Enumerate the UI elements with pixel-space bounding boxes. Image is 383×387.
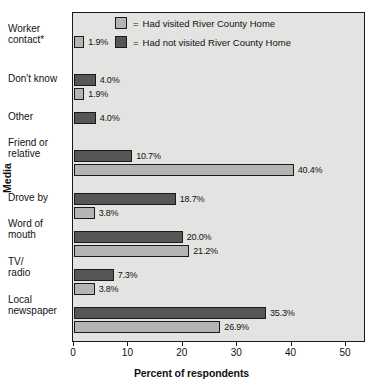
bar [74,307,266,319]
x-axis-tick [236,342,237,346]
x-axis-tick [73,342,74,346]
bar-value-label: 40.4% [298,164,323,176]
bar-value-label: 35.3% [270,307,295,319]
bar-value-label: 21.2% [193,245,218,257]
category-label: Other [8,111,72,123]
bar-value-label: 4.0% [100,74,120,86]
x-axis-tick-label: 40 [285,347,296,358]
bar-value-label: 4.0% [100,112,120,124]
bar [74,207,95,219]
x-axis-tick [291,342,292,346]
bar-value-label: 20.0% [187,231,212,243]
bar [74,164,294,176]
x-axis-tick [127,342,128,346]
category-label: TV/ radio [8,256,72,279]
bar-value-label: 1.9% [88,36,108,48]
legend-swatch [115,17,127,29]
legend-item: =Had not visited River County Home [115,36,291,48]
bar [74,321,220,333]
category-label: Word of mouth [8,218,72,241]
x-axis-tick-label: 0 [70,347,76,358]
bar-value-label: 7.3% [118,269,138,281]
legend-item: =Had visited River County Home [115,17,291,29]
x-axis-tick-label: 10 [122,347,133,358]
category-label: Worker contact* [8,23,72,46]
bar-value-label: 10.7% [136,150,161,162]
plot-area: 1.9%4.0%1.9%4.0%10.7%40.4%18.7%3.8%20.0%… [72,12,365,342]
category-label: Local newspaper [8,294,72,317]
bar [74,283,95,295]
bar [74,36,84,48]
legend-swatch [115,36,127,48]
legend-label: Had not visited River County Home [143,37,291,48]
bar [74,150,132,162]
legend-equals-sign: = [133,37,139,48]
x-axis-tick-label: 30 [231,347,242,358]
category-label: Friend or relative [8,137,72,160]
bar-value-label: 3.8% [99,207,119,219]
legend-label: Had visited River County Home [143,18,276,29]
bar-chart: Media Worker contact*Don't knowOtherFrie… [0,0,383,387]
bar [74,245,189,257]
bar [74,88,84,100]
x-axis: 01020304050 [72,342,366,368]
bar [74,112,96,124]
x-axis-title: Percent of respondents [0,367,383,379]
x-axis-tick-label: 20 [176,347,187,358]
legend-equals-sign: = [133,18,139,29]
bar [74,74,96,86]
bar [74,269,114,281]
bar [74,193,176,205]
x-axis-tick [345,342,346,346]
y-axis-category-labels: Worker contact*Don't knowOtherFriend or … [8,0,72,387]
x-axis-tick-label: 50 [339,347,350,358]
category-label: Don't know [8,73,72,85]
bar-value-label: 1.9% [88,88,108,100]
x-axis-tick [182,342,183,346]
bar-value-label: 3.8% [99,283,119,295]
category-label: Drove by [8,192,72,204]
bar-value-label: 26.9% [224,321,249,333]
bar-value-label: 18.7% [180,193,205,205]
chart-legend: =Had visited River County Home=Had not v… [115,17,291,55]
bar [74,231,183,243]
